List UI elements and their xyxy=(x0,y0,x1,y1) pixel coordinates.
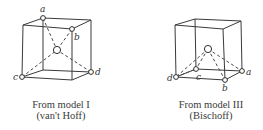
cube-edge xyxy=(223,21,241,29)
cube-edge xyxy=(43,18,91,72)
label-c: c xyxy=(196,72,201,82)
bond-b xyxy=(208,49,225,80)
cube-model-1: a b c d xyxy=(13,4,101,82)
bond-c xyxy=(22,50,57,77)
cube-edge xyxy=(72,72,91,80)
caption-model-3: From model III (Bischoff) xyxy=(151,99,263,121)
bond-d xyxy=(176,49,208,77)
atom-c xyxy=(194,67,199,72)
label-d: d xyxy=(167,73,173,83)
label-a: a xyxy=(246,67,251,77)
label-b: b xyxy=(222,83,228,93)
atom-a xyxy=(240,69,245,74)
bond-a xyxy=(43,18,57,50)
bond-d xyxy=(57,50,91,72)
caption-title: From model I xyxy=(1,99,121,110)
label-c: c xyxy=(13,72,18,82)
atom-a xyxy=(41,16,46,21)
caption-model-1: From model I (van't Hoff) xyxy=(1,99,121,121)
cube-model-3: a b c d xyxy=(167,19,251,93)
label-d: d xyxy=(95,67,101,77)
caption-subtitle: (Bischoff) xyxy=(151,110,263,121)
atom-b xyxy=(223,78,228,83)
atom-c xyxy=(20,75,25,80)
cube-edge xyxy=(175,19,195,25)
caption-title: From model III xyxy=(151,99,263,110)
cube-edge xyxy=(43,70,91,72)
label-a: a xyxy=(40,4,45,14)
cube-edge xyxy=(23,18,43,25)
atom-d xyxy=(89,70,94,75)
caption-subtitle: (van't Hoff) xyxy=(1,110,121,121)
central-atom xyxy=(53,46,60,53)
label-b: b xyxy=(74,32,80,42)
cube-edge xyxy=(72,20,91,29)
central-atom xyxy=(204,45,211,52)
atom-d xyxy=(174,75,179,80)
cube-edge xyxy=(22,25,72,80)
cube-edge xyxy=(22,70,43,77)
atom-b xyxy=(70,27,75,32)
